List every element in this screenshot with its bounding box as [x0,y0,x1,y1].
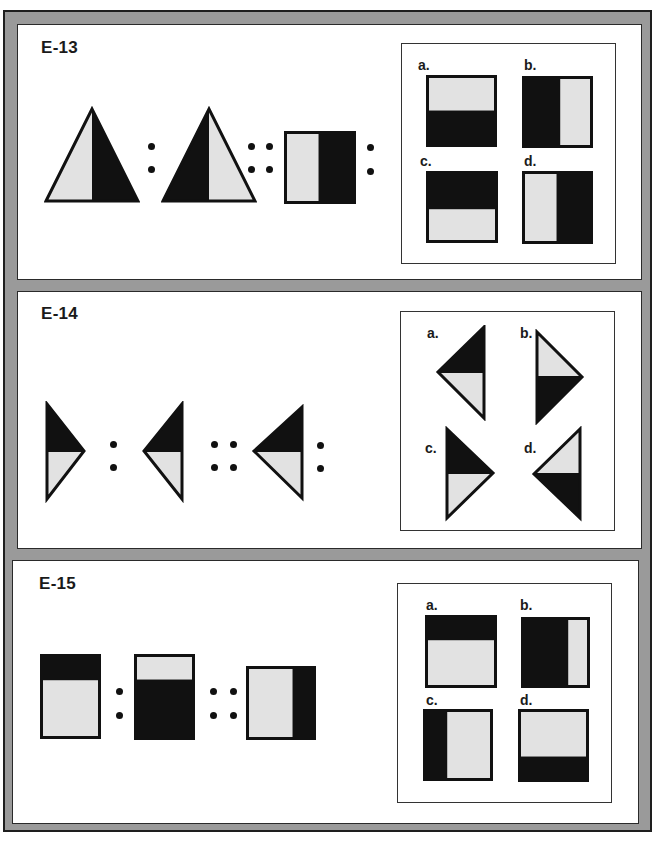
triangle-figure-2 [161,106,257,204]
choice-c-square[interactable] [423,709,494,781]
triangle-figure-1 [44,401,88,503]
rectangle-figure-3 [246,666,316,740]
choice-b-triangle[interactable] [534,329,586,425]
square-figure-3 [284,131,356,204]
choice-d-square[interactable] [518,709,589,782]
choice-d-triangle[interactable] [531,426,583,522]
choice-c-triangle[interactable] [444,426,496,522]
choice-label-d: d. [520,692,532,708]
choice-label-c: c. [426,692,438,708]
choice-b-square[interactable] [521,617,591,688]
choice-label-c: c. [425,440,437,456]
choice-label-b: b. [520,325,532,341]
triangle-figure-1 [44,106,140,204]
choice-label-c: c. [420,153,432,169]
rectangle-figure-2 [134,654,195,740]
triangle-figure-3 [251,404,305,502]
choice-label-d: d. [524,153,536,169]
choice-a-square[interactable] [425,615,497,688]
choice-label-a: a. [418,57,430,73]
choice-a-triangle[interactable] [435,325,487,421]
choice-d-square[interactable] [522,171,593,244]
choice-b-square[interactable] [522,76,593,148]
choice-a-square[interactable] [426,75,497,147]
rectangle-figure-1 [40,654,101,739]
item-title: E-14 [41,304,78,324]
choice-label-b: b. [520,597,532,613]
triangle-figure-2 [141,401,185,503]
item-title: E-15 [39,574,76,594]
choice-label-a: a. [426,597,438,613]
item-title: E-13 [41,38,78,58]
choice-label-b: b. [524,57,536,73]
choice-c-square[interactable] [426,171,498,243]
